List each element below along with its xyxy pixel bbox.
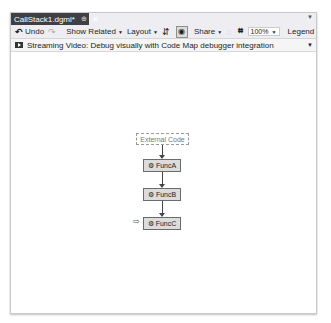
node-label: External Code	[140, 136, 184, 143]
share-label: Share	[194, 27, 215, 36]
share-button[interactable]: Share ▼	[194, 27, 222, 36]
show-related-button[interactable]: Show Related ▼	[66, 27, 123, 36]
graph-canvas[interactable]: External Code ⚙ FuncA ⚙ FuncB ⇨ ⚙ FuncC	[11, 52, 316, 313]
chevron-down-icon: ▼	[272, 29, 277, 35]
info-bar[interactable]: Streaming Video: Debug visually with Cod…	[11, 39, 316, 52]
undo-label: Undo	[25, 27, 44, 36]
node-label: FuncC	[156, 220, 177, 227]
node-label: FuncB	[156, 191, 176, 198]
method-icon: ⚙	[148, 162, 154, 170]
zoom-value: 100%	[251, 28, 269, 35]
legend-label: Legend	[288, 27, 315, 36]
code-map-window: CallStack1.dgml* ⊕ ✕ ▼ ↶ Undo ↷ Show Rel…	[10, 12, 317, 314]
layout-label: Layout	[127, 27, 151, 36]
fit-to-window-button[interactable]: ⌗	[238, 26, 245, 37]
chevron-down-icon: ▼	[217, 29, 222, 35]
show-related-label: Show Related	[66, 27, 116, 36]
chevron-down-icon[interactable]: ▼	[307, 42, 313, 48]
tab-title: CallStack1.dgml*	[14, 15, 75, 24]
legend-button[interactable]: Legend	[288, 27, 315, 36]
video-icon	[15, 42, 23, 48]
node-label: FuncA	[156, 162, 176, 169]
document-tab[interactable]: CallStack1.dgml* ⊕ ✕	[11, 13, 89, 25]
node-funcb[interactable]: ⚙ FuncB	[143, 188, 181, 201]
sort-icon: ⇵	[162, 27, 170, 37]
pin-icon[interactable]: ⊕	[81, 15, 87, 23]
undo-button[interactable]: ↶ Undo	[15, 27, 44, 37]
redo-icon: ↷	[48, 27, 56, 37]
undo-icon: ↶	[15, 27, 23, 37]
comment-icon: ◌	[226, 27, 231, 37]
debugger-icon: ◉	[178, 27, 185, 36]
redo-button[interactable]: ↷	[48, 27, 58, 37]
chevron-down-icon: ▼	[118, 29, 123, 35]
node-funcc[interactable]: ⚙ FuncC	[143, 217, 181, 230]
current-frame-icon: ⇨	[133, 217, 140, 226]
fit-icon: ⌗	[238, 26, 243, 37]
chevron-down-icon: ▼	[153, 29, 158, 35]
tab-dropdown-icon[interactable]: ▼	[307, 14, 313, 20]
node-external-code[interactable]: External Code	[136, 133, 189, 145]
debugger-toggle-button[interactable]: ◉	[176, 26, 188, 38]
zoom-select[interactable]: 100% ▼	[248, 27, 280, 36]
method-icon: ⚙	[148, 220, 154, 228]
tab-strip: CallStack1.dgml* ⊕ ✕ ▼	[11, 13, 316, 25]
method-icon: ⚙	[148, 191, 154, 199]
toolbar: ↶ Undo ↷ Show Related ▼ Layout ▼ ⇵ ◉ Sha…	[11, 25, 316, 39]
info-bar-text[interactable]: Streaming Video: Debug visually with Cod…	[27, 41, 274, 50]
close-icon[interactable]: ✕	[92, 15, 99, 24]
comment-button[interactable]: ◌	[226, 27, 233, 37]
node-funca[interactable]: ⚙ FuncA	[143, 159, 181, 172]
layout-button[interactable]: Layout ▼	[127, 27, 158, 36]
sort-button[interactable]: ⇵	[162, 27, 172, 37]
